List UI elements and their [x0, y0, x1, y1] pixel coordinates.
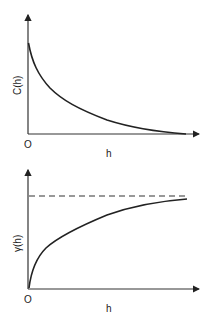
covariance-chart: O h C(h) — [12, 15, 199, 159]
bottom-y-label: γ(h) — [12, 235, 23, 252]
semivariogram-chart: O h γ(h) — [12, 170, 199, 314]
diagram-canvas: O h C(h) O h γ(h) — [0, 0, 207, 321]
covariance-curve — [29, 43, 187, 134]
top-y-label: C(h) — [12, 76, 23, 95]
bottom-origin-label: O — [24, 294, 32, 305]
top-x-label: h — [106, 148, 112, 159]
semivariogram-curve — [29, 199, 187, 288]
bottom-x-label: h — [106, 303, 112, 314]
top-origin-label: O — [24, 139, 32, 150]
